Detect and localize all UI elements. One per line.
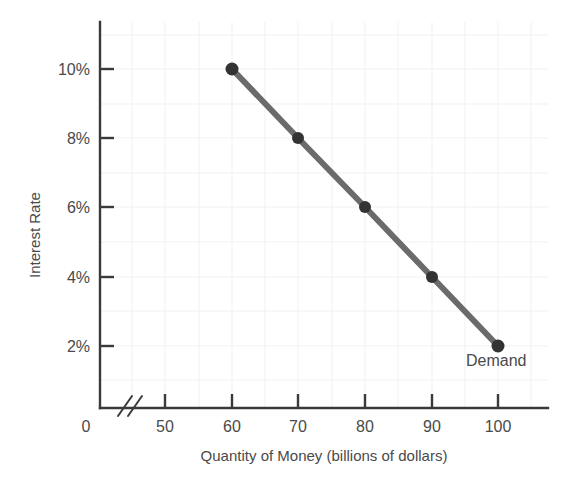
x-tick-label-50: 50 — [156, 418, 174, 435]
data-point — [359, 201, 371, 213]
demand-series-label: Demand — [466, 352, 526, 369]
data-point — [292, 132, 304, 144]
x-tick-label-90: 90 — [423, 418, 441, 435]
x-tick-label-70: 70 — [289, 418, 307, 435]
y-axis-title: Interest Rate — [26, 192, 43, 278]
data-point — [492, 340, 505, 353]
data-point — [226, 63, 239, 76]
y-tick-label-10: 10% — [58, 61, 90, 78]
y-tick-label-6: 6% — [67, 199, 90, 216]
x-tick-label-0: 0 — [82, 418, 91, 435]
x-tick-label-100: 100 — [485, 418, 512, 435]
x-tick-label-60: 60 — [223, 418, 241, 435]
data-point — [426, 271, 438, 283]
y-tick-label-4: 4% — [67, 269, 90, 286]
y-tick-label-8: 8% — [67, 130, 90, 147]
x-tick-label-80: 80 — [356, 418, 374, 435]
demand-curve-chart: 10% 8% 6% 4% 2% 0 50 60 70 80 90 100 Qua… — [0, 0, 567, 482]
y-tick-label-2: 2% — [67, 338, 90, 355]
chart-canvas: 10% 8% 6% 4% 2% 0 50 60 70 80 90 100 Qua… — [0, 0, 567, 482]
x-axis-title: Quantity of Money (billions of dollars) — [201, 447, 448, 464]
